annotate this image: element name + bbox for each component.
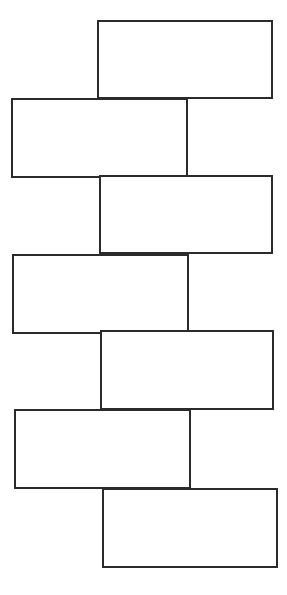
diagram-svg — [0, 0, 287, 595]
shape-layer — [12, 21, 277, 567]
rectangle-5[interactable] — [101, 331, 273, 409]
rectangle-2[interactable] — [12, 99, 187, 177]
diagram-canvas — [0, 0, 287, 595]
rectangle-3[interactable] — [100, 176, 272, 253]
rectangle-6[interactable] — [15, 410, 190, 488]
rectangle-7[interactable] — [103, 489, 277, 567]
rectangle-4[interactable] — [13, 255, 188, 333]
rectangle-1[interactable] — [98, 21, 272, 98]
